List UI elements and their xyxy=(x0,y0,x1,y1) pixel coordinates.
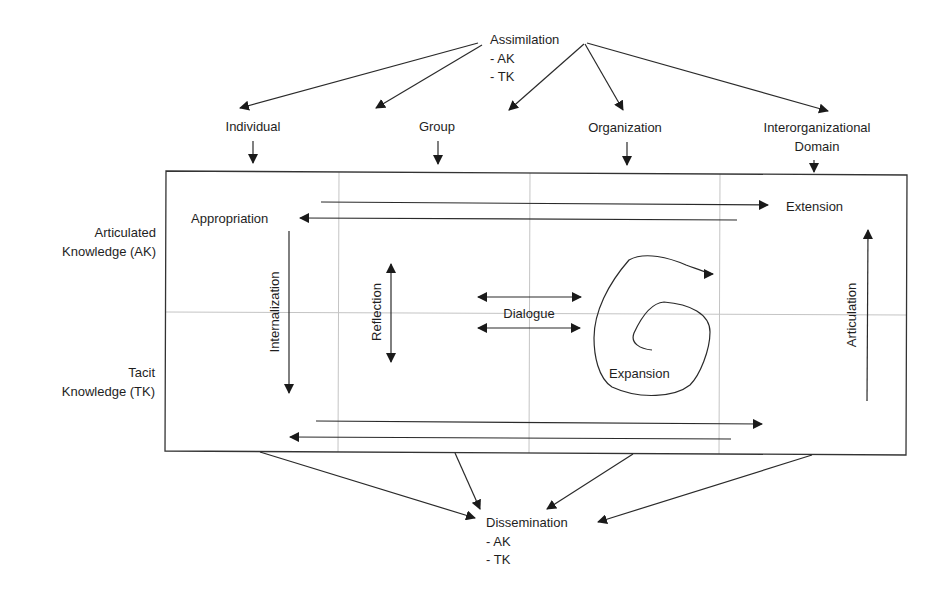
label-internalization: Internalization xyxy=(267,272,282,353)
label-reflection: Reflection xyxy=(369,283,384,341)
column-label-interorganizational: Interorganizational xyxy=(764,120,871,135)
arrow-bottom-right xyxy=(316,421,762,424)
dissemination-item-ak: - AK xyxy=(486,534,511,549)
assimilation-item-tk: - TK xyxy=(490,69,515,84)
expansion-group: Expansion xyxy=(594,256,713,396)
articulation-group: Articulation xyxy=(844,230,868,401)
dissemination-arrows xyxy=(260,452,812,522)
arrow-to-appropriation xyxy=(300,218,737,220)
assimilation-item-ak: - AK xyxy=(490,51,515,66)
label-appropriation: Appropriation xyxy=(191,211,268,226)
assimilation-node: Assimilation - AK - TK xyxy=(490,32,559,84)
bottom-flow xyxy=(290,421,762,439)
label-extension: Extension xyxy=(786,199,843,214)
label-dialogue: Dialogue xyxy=(503,306,554,321)
row-labels: Articulated Knowledge (AK) Tacit Knowled… xyxy=(62,225,156,399)
assimilation-arrows xyxy=(240,43,828,111)
arrow-to-individual xyxy=(240,43,478,108)
arrow-from-organization xyxy=(547,454,633,509)
arrow-articulation xyxy=(867,230,868,401)
column-label-group: Group xyxy=(419,119,455,134)
arrow-to-extension xyxy=(321,202,768,205)
label-articulation: Articulation xyxy=(844,283,859,347)
top-flow: Appropriation Extension xyxy=(191,199,843,226)
column-labels: Individual Group Organization Interorgan… xyxy=(226,119,871,154)
arrow-from-individual xyxy=(260,452,475,518)
row-label-articulated: Articulated xyxy=(95,225,156,240)
arrow-to-organization-main xyxy=(585,44,623,110)
row-label-ak: Knowledge (AK) xyxy=(62,244,156,259)
dissemination-item-tk: - TK xyxy=(486,552,511,567)
arrow-bottom-left xyxy=(290,437,731,439)
column-label-domain: Domain xyxy=(795,139,840,154)
grid-line-col-1 xyxy=(338,172,339,452)
column-label-organization: Organization xyxy=(588,120,662,135)
assimilation-title: Assimilation xyxy=(490,32,559,47)
knowledge-framework-diagram: Assimilation - AK - TK Individual Group … xyxy=(0,0,945,605)
dissemination-node: Dissemination - AK - TK xyxy=(486,515,568,567)
arrow-to-interorganizational xyxy=(587,43,828,111)
arrow-to-group xyxy=(376,45,482,108)
column-down-arrows xyxy=(253,141,814,172)
arrow-from-interorganizational xyxy=(598,455,812,522)
label-expansion: Expansion xyxy=(609,366,670,381)
row-label-tacit: Tacit xyxy=(128,365,155,380)
arrow-from-group xyxy=(455,453,480,509)
column-label-individual: Individual xyxy=(226,119,281,134)
row-label-tk: Knowledge (TK) xyxy=(62,384,155,399)
arrow-to-organization xyxy=(509,44,584,110)
dissemination-title: Dissemination xyxy=(486,515,568,530)
